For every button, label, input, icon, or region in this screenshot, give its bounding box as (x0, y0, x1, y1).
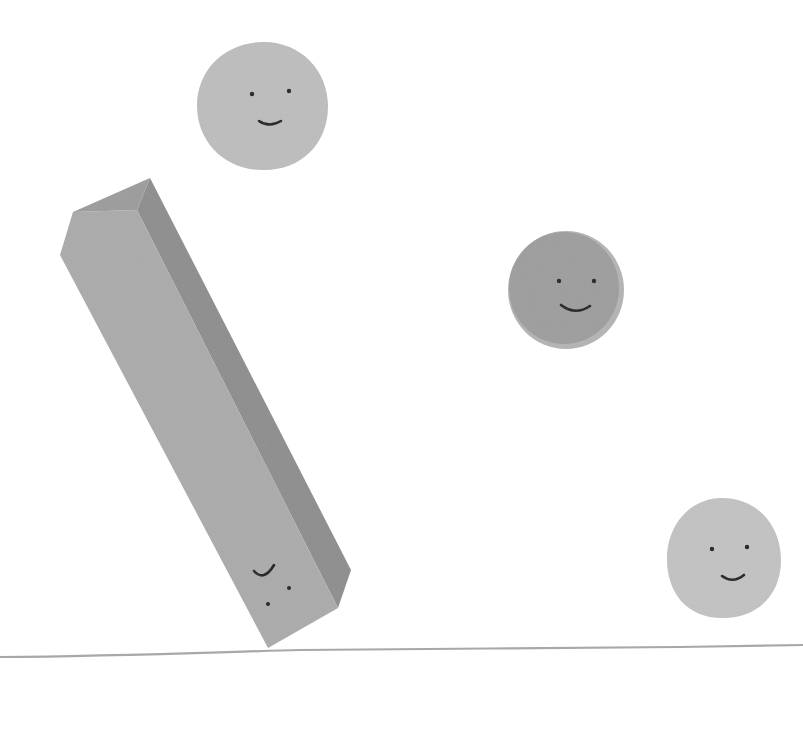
bar-eye-icon (266, 602, 270, 606)
eye-icon (557, 279, 561, 283)
top-circle (197, 42, 328, 170)
middle-circle (508, 231, 624, 349)
eye-icon (287, 89, 291, 93)
eye-icon (592, 279, 596, 283)
eye-icon (250, 92, 254, 96)
bottom-right-circle (667, 498, 781, 618)
bar-eye-icon (287, 586, 291, 590)
eye-icon (745, 545, 749, 549)
illustration-canvas (0, 0, 803, 731)
tilted-bar (60, 178, 351, 648)
ground-line (0, 645, 803, 657)
eye-icon (710, 547, 714, 551)
